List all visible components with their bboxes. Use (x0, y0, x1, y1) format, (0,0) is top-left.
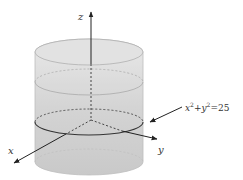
cylinder (35, 39, 143, 175)
y-axis-label: y (157, 144, 164, 155)
top-ellipse (35, 39, 143, 65)
equation-label: x2+y2=25 (185, 101, 230, 113)
x-axis-label: x (8, 145, 14, 156)
equation-pointer (150, 107, 182, 122)
z-axis-label: z (77, 11, 84, 22)
cylinder-diagram: z x y x2+y2=25 (0, 0, 243, 180)
